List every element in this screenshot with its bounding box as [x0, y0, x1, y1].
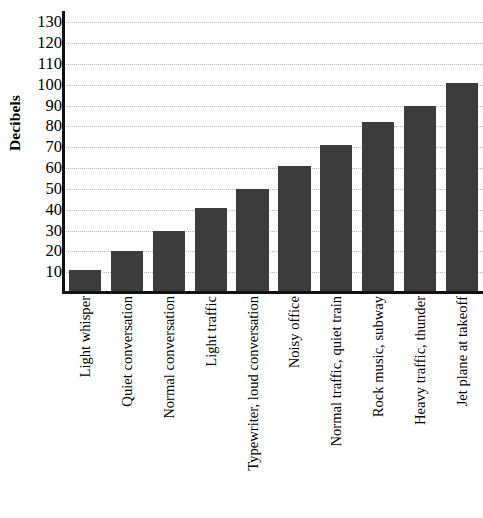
- bar-chart: Decibels 130120110100908070605040302010 …: [0, 0, 483, 518]
- x-tick-label: Light traffic: [203, 296, 218, 367]
- bar: [278, 166, 310, 293]
- y-axis-line: [62, 11, 65, 294]
- gridline: [64, 43, 483, 44]
- y-tick-label: 110: [22, 56, 62, 72]
- x-tick-label-slot: Normal traffic, quiet train: [315, 296, 357, 501]
- bar: [404, 106, 436, 293]
- bar: [111, 251, 143, 293]
- x-axis-line: [62, 291, 483, 294]
- x-tick-label: Quiet conversation: [119, 296, 134, 407]
- y-tick-label: 120: [22, 35, 62, 51]
- y-tick-label: 20: [22, 243, 62, 259]
- x-tick-label: Rock music, subway: [371, 296, 386, 417]
- x-tick-label: Normal conversation: [161, 296, 176, 419]
- y-tick-label: 60: [22, 160, 62, 176]
- y-axis-tick-labels: 130120110100908070605040302010: [22, 0, 62, 518]
- bar: [153, 231, 185, 293]
- x-tick-label-slot: Quiet conversation: [106, 296, 148, 501]
- y-tick-label: 80: [22, 118, 62, 134]
- y-tick-label: 130: [22, 14, 62, 30]
- x-tick-label: Light whisper: [77, 296, 92, 377]
- y-tick-label: 90: [22, 98, 62, 114]
- x-tick-label: Normal traffic, quiet train: [329, 296, 344, 446]
- plot-area: [64, 12, 483, 293]
- gridline: [64, 85, 483, 86]
- x-tick-label: Heavy traffic, thunder: [413, 296, 428, 425]
- y-tick-label: 40: [22, 202, 62, 218]
- y-tick-label: 30: [22, 223, 62, 239]
- x-tick-label-slot: Jet plane at takeoff: [441, 296, 483, 501]
- gridline: [64, 64, 483, 65]
- bar: [446, 83, 478, 293]
- x-tick-label: Noisy office: [287, 296, 302, 368]
- y-tick-label: 70: [22, 139, 62, 155]
- x-tick-label-slot: Typewriter, loud conversation: [232, 296, 274, 501]
- x-tick-label: Typewriter, loud conversation: [245, 296, 260, 471]
- bar: [195, 208, 227, 293]
- bar: [236, 189, 268, 293]
- y-tick-label: 100: [22, 77, 62, 93]
- x-tick-label: Jet plane at takeoff: [455, 296, 470, 406]
- y-tick-label: 10: [22, 264, 62, 280]
- x-tick-label-slot: Light whisper: [64, 296, 106, 501]
- x-tick-label-slot: Rock music, subway: [357, 296, 399, 501]
- bar: [69, 270, 101, 293]
- bar: [320, 145, 352, 293]
- x-tick-label-slot: Heavy traffic, thunder: [399, 296, 441, 501]
- x-axis-tick-labels: Light whisperQuiet conversationNormal co…: [64, 296, 483, 506]
- x-tick-label-slot: Noisy office: [274, 296, 316, 501]
- y-tick-label: 50: [22, 181, 62, 197]
- x-tick-label-slot: Normal conversation: [148, 296, 190, 501]
- x-tick-label-slot: Light traffic: [190, 296, 232, 501]
- gridline: [64, 22, 483, 23]
- bar: [362, 122, 394, 293]
